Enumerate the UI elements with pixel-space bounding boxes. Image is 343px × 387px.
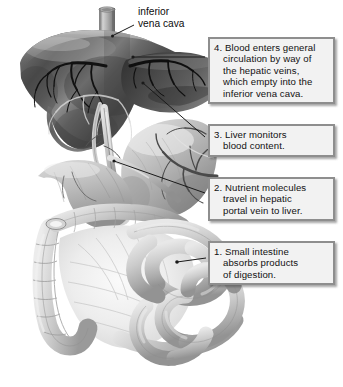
- callout-1-line-1: 1. Small intestine: [214, 246, 328, 257]
- callout-step-1[interactable]: 1. Small intestine absorbs products of d…: [208, 241, 335, 285]
- callout-3-line-1: 3. Liver monitors: [214, 129, 328, 140]
- callout-4-line-5: inferior vena cava.: [214, 88, 328, 99]
- anatomical-diagram: inferior vena cava 4. Blood enters gener…: [0, 0, 343, 387]
- callout-step-3[interactable]: 3. Liver monitors blood content.: [208, 124, 335, 157]
- callout-3-line-2: blood content.: [214, 140, 328, 151]
- label-inferior-vena-cava: inferior vena cava: [138, 6, 184, 31]
- callout-4-line-3: the hepatic veins,: [214, 65, 328, 76]
- callout-4-line-4: which empty into the: [214, 76, 328, 87]
- callout-4-line-1: 4. Blood enters general: [214, 42, 328, 53]
- label-line-1: inferior: [138, 6, 184, 18]
- callout-step-2[interactable]: 2. Nutrient molecules travel in hepatic …: [208, 177, 335, 221]
- callout-1-line-2: absorbs products: [214, 257, 328, 268]
- callout-4-line-2: circulation by way of: [214, 53, 328, 64]
- callout-2-line-1: 2. Nutrient molecules: [214, 182, 328, 193]
- callout-step-4[interactable]: 4. Blood enters general circulation by w…: [208, 37, 335, 104]
- callout-1-line-3: of digestion.: [214, 269, 328, 280]
- label-line-2: vena cava: [138, 18, 184, 30]
- callout-2-line-2: travel in hepatic: [214, 193, 328, 204]
- callout-2-line-3: portal vein to liver.: [214, 205, 328, 216]
